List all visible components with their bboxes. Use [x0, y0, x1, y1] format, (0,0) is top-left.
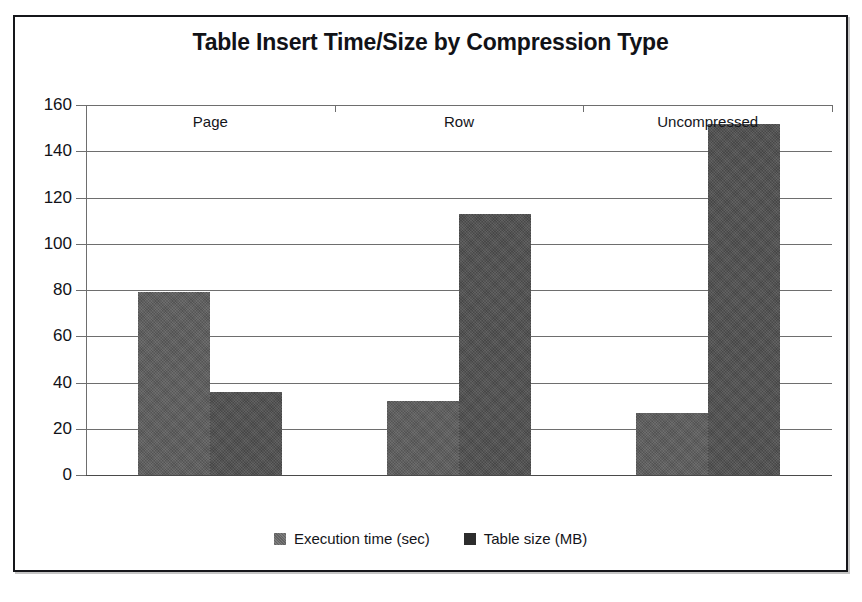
gridline: [86, 475, 832, 476]
bar-uncompressed-series-1: [636, 413, 708, 475]
y-axis-tick-label: 80: [53, 280, 72, 300]
y-axis-tick-label: 160: [44, 95, 72, 115]
y-axis-tick: [76, 105, 86, 106]
x-axis-tick-label-uncompressed: Uncompressed: [657, 113, 758, 130]
x-axis-tick-label-page: Page: [193, 113, 228, 130]
plot-area: 020406080100120140160 PageRowUncompresse…: [86, 105, 832, 475]
y-axis-tick: [76, 198, 86, 199]
y-axis-tick: [76, 429, 86, 430]
y-axis-tick: [76, 336, 86, 337]
chart-title: Table Insert Time/Size by Compression Ty…: [15, 29, 846, 56]
bar-page-series-2: [210, 392, 282, 475]
y-axis-tick-label: 120: [44, 188, 72, 208]
y-axis-tick-label: 60: [53, 326, 72, 346]
x-axis-tick-label-row: Row: [444, 113, 474, 130]
x-axis-tick: [335, 105, 336, 112]
bar-row-series-2: [459, 214, 531, 475]
x-axis-tick: [86, 105, 87, 112]
y-axis-tick: [76, 290, 86, 291]
legend-swatch-icon: [274, 533, 286, 545]
y-axis-tick-label: 100: [44, 234, 72, 254]
bar-row-series-1: [387, 401, 459, 475]
y-axis-tick: [76, 475, 86, 476]
bar-uncompressed-series-2: [708, 124, 780, 476]
legend-item-1[interactable]: Execution time (sec): [274, 530, 430, 547]
gridline: [86, 105, 832, 106]
legend-item-2[interactable]: Table size (MB): [464, 530, 587, 547]
y-axis-tick: [76, 151, 86, 152]
legend-label: Table size (MB): [484, 530, 587, 547]
y-axis-tick-label: 140: [44, 141, 72, 161]
x-axis-tick: [832, 105, 833, 112]
x-axis-tick: [583, 105, 584, 112]
y-axis-tick-label: 0: [63, 465, 72, 485]
y-axis-tick: [76, 383, 86, 384]
y-axis-tick-label: 40: [53, 373, 72, 393]
legend-swatch-icon: [464, 533, 476, 545]
y-axis-tick: [76, 244, 86, 245]
chart-frame: Table Insert Time/Size by Compression Ty…: [13, 15, 848, 572]
bar-page-series-1: [138, 292, 210, 475]
legend-label: Execution time (sec): [294, 530, 430, 547]
chart-legend: Execution time (sec)Table size (MB): [15, 530, 846, 547]
y-axis-tick-label: 20: [53, 419, 72, 439]
